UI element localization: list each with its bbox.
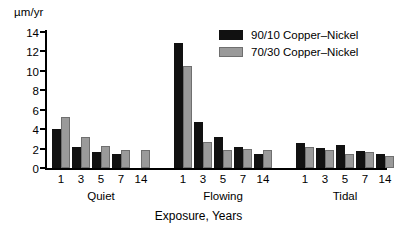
bar	[263, 150, 272, 168]
legend-item: 70/30 Copper–Nickel	[219, 45, 358, 59]
y-axis-tick-label: 6	[33, 105, 39, 117]
x-axis-tick-label: 7	[240, 173, 246, 185]
x-axis-tick-label: 5	[342, 173, 348, 185]
y-axis-unit-label: µm/yr	[14, 6, 43, 18]
x-axis-tick-label: 14	[135, 173, 148, 185]
legend-swatch-icon	[219, 30, 243, 40]
bar	[345, 154, 354, 168]
y-axis-tick-label: 4	[33, 124, 39, 136]
bar	[234, 147, 243, 168]
bar	[112, 154, 121, 168]
bar	[336, 145, 345, 168]
y-axis-tick-label: 0	[33, 163, 39, 175]
x-axis-tick-label: 3	[200, 173, 206, 185]
x-axis-tick-label: 7	[362, 173, 368, 185]
bar	[61, 117, 70, 168]
bar	[121, 150, 130, 168]
bar	[183, 66, 192, 168]
bar	[385, 156, 394, 168]
bar	[203, 142, 212, 168]
y-axis-tick-label: 10	[26, 66, 39, 78]
x-axis-tick-label: 3	[322, 173, 328, 185]
bar	[141, 150, 150, 168]
x-axis-title: Exposure, Years	[0, 209, 397, 223]
y-axis-tick-label: 8	[33, 85, 39, 97]
y-axis-tick-label: 14	[26, 27, 39, 39]
bar	[254, 154, 263, 168]
x-axis-tick-label: 1	[302, 173, 308, 185]
bar	[101, 146, 110, 168]
x-axis-tick-label: 5	[220, 173, 226, 185]
x-axis-tick-label: 14	[379, 173, 392, 185]
x-axis-group-label: Tidal	[333, 190, 358, 202]
y-axis-tick-label: 12	[26, 46, 39, 58]
y-axis-tick-label: 2	[33, 144, 39, 156]
x-axis-tick-label: 1	[180, 173, 186, 185]
bar	[305, 147, 314, 168]
legend-swatch-icon	[219, 47, 243, 57]
x-axis-group-label: Flowing	[203, 190, 243, 202]
bar-chart-figure: µm/yr 02468101214 135714135714135714 Qui…	[0, 0, 397, 236]
bar	[174, 43, 183, 168]
bar	[194, 122, 203, 168]
bar	[325, 150, 334, 168]
x-axis-tick-label: 14	[257, 173, 270, 185]
legend: 90/10 Copper–Nickel 70/30 Copper–Nickel	[219, 28, 358, 62]
legend-label: 90/10 Copper–Nickel	[251, 29, 358, 41]
bar	[81, 137, 90, 168]
bar	[214, 137, 223, 168]
bar	[72, 147, 81, 168]
bar	[223, 150, 232, 168]
legend-label: 70/30 Copper–Nickel	[251, 46, 358, 58]
bar	[316, 148, 325, 168]
x-axis-tick-label: 3	[78, 173, 84, 185]
bar	[243, 149, 252, 168]
bar	[356, 151, 365, 168]
bar	[376, 154, 385, 168]
x-axis-tick-label: 5	[98, 173, 104, 185]
x-axis-line	[45, 168, 387, 170]
bar	[365, 152, 374, 168]
x-axis-group-label: Quiet	[87, 190, 115, 202]
bar	[92, 152, 101, 168]
bar	[52, 129, 61, 168]
x-axis-tick-label: 7	[118, 173, 124, 185]
x-axis-tick-label: 1	[58, 173, 64, 185]
legend-item: 90/10 Copper–Nickel	[219, 28, 358, 42]
bar	[296, 143, 305, 168]
